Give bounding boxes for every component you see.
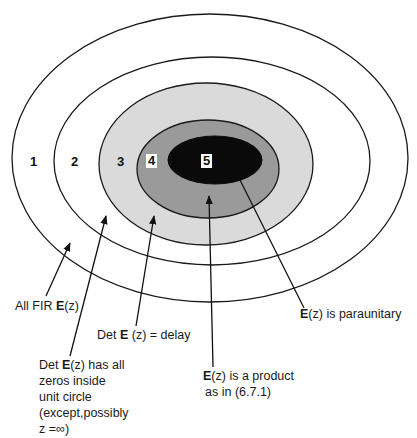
label-all-fir: All FIR E(z) [15, 298, 79, 314]
label-text: (z) is paraunitary [308, 307, 401, 321]
label-line: zeros inside [39, 373, 129, 389]
label-paraunitary: E(z) is paraunitary [300, 306, 401, 322]
label-line: unit circle [39, 389, 129, 405]
label-line: z =∞) [39, 421, 129, 437]
label-line: as in (6.7.1) [203, 384, 294, 400]
label-det-delay: Det E (z) = delay [97, 327, 190, 343]
label-text: All FIR [15, 299, 56, 313]
region-number-5: 5 [201, 154, 212, 168]
label-text: Det [97, 328, 120, 342]
label-line: (except,possibly [39, 405, 129, 421]
set-5-paraunitary [168, 136, 262, 184]
label-det-zeros-inside: Det E(z) has all zeros inside unit circl… [39, 357, 129, 437]
label-text: (z) is a product [211, 369, 294, 383]
region-number-4: 4 [146, 154, 157, 168]
label-text: (z) = delay [128, 328, 190, 342]
label-product: E(z) is a product as in (6.7.1) [203, 368, 294, 400]
region-number-3: 3 [115, 155, 126, 169]
region-number-2: 2 [71, 155, 78, 169]
label-text: (z) [64, 299, 79, 313]
region-number-1: 1 [30, 155, 37, 169]
label-text: Det [39, 358, 62, 372]
label-text: (z) has all [70, 358, 124, 372]
